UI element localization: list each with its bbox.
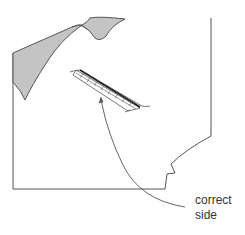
collar-flap-left [13,25,82,100]
annotation-label-line1: correct [195,193,232,207]
welt-pocket-strip [70,70,150,112]
arrowhead-icon [99,97,103,103]
collar-flap-top [82,17,125,39]
annotation-label-line2: side [195,208,217,222]
annotation-arrow-line [101,100,185,207]
